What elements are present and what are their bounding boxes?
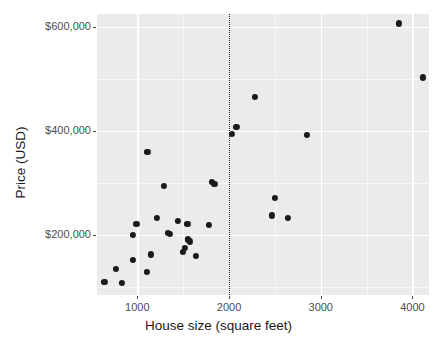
plot-panel: [97, 14, 429, 295]
data-point: [161, 183, 167, 189]
x-tick-label: 1000: [112, 301, 162, 313]
gridline-major-horizontal: [97, 27, 429, 28]
gridline-major-vertical: [137, 14, 138, 295]
x-tick-label: 4000: [387, 301, 437, 313]
data-point: [119, 280, 125, 286]
data-point: [233, 124, 239, 130]
data-point: [396, 20, 402, 26]
y-tick-mark: [93, 27, 96, 28]
gridline-major-horizontal: [97, 131, 429, 132]
reference-line-2000-sqft: [229, 14, 230, 295]
gridline-minor-vertical: [275, 14, 276, 295]
data-point: [206, 222, 212, 228]
x-axis-title: House size (square feet): [0, 318, 437, 333]
x-tick-label: 3000: [296, 301, 346, 313]
x-tick-mark: [412, 296, 413, 299]
data-point: [144, 149, 150, 155]
data-point: [193, 253, 199, 259]
data-point: [143, 268, 149, 274]
scatter-plot-figure: these faint lines are show-through text …: [0, 0, 437, 355]
data-point: [252, 94, 258, 100]
y-tick-label: $600,000: [5, 20, 91, 32]
data-point: [184, 221, 190, 227]
data-point: [148, 251, 154, 257]
data-point: [130, 232, 136, 238]
gridline-major-vertical: [412, 14, 413, 295]
data-point: [272, 195, 278, 201]
data-point: [187, 238, 193, 244]
data-point: [154, 215, 160, 221]
data-point: [175, 217, 181, 223]
data-point: [101, 279, 107, 285]
gridline-major-vertical: [321, 14, 322, 295]
data-point: [130, 257, 136, 263]
data-point: [304, 132, 310, 138]
x-tick-mark: [321, 296, 322, 299]
x-tick-label: 2000: [204, 301, 254, 313]
y-axis-title: Price (USD): [13, 73, 28, 253]
data-point: [211, 181, 217, 187]
data-point: [229, 131, 235, 137]
gridline-minor-horizontal: [97, 287, 429, 288]
data-point: [182, 245, 188, 251]
gridline-minor-vertical: [367, 14, 368, 295]
data-point: [133, 221, 139, 227]
gridline-minor-horizontal: [97, 79, 429, 80]
gridline-major-horizontal: [97, 235, 429, 236]
y-tick-mark: [93, 131, 96, 132]
gridline-minor-horizontal: [97, 183, 429, 184]
data-point: [285, 215, 291, 221]
x-tick-mark: [137, 296, 138, 299]
y-tick-mark: [93, 235, 96, 236]
x-tick-mark: [229, 296, 230, 299]
data-point: [113, 266, 119, 272]
